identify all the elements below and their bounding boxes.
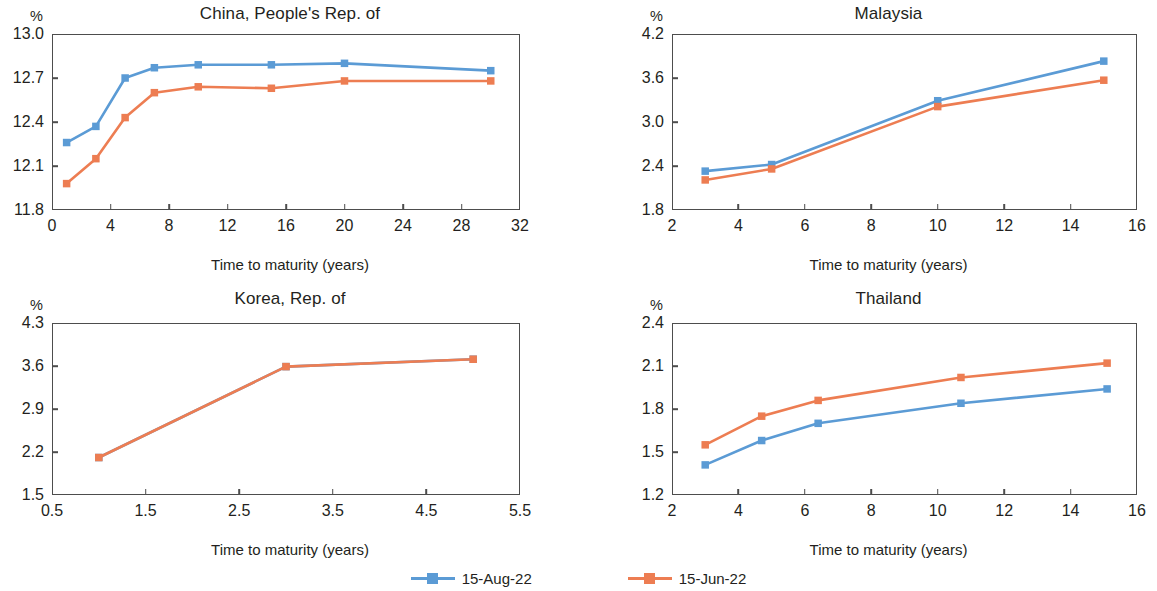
- data-point-marker: [282, 363, 290, 371]
- data-point-marker: [92, 155, 100, 163]
- series-jun: [701, 359, 1110, 448]
- series-layer: [0, 0, 580, 268]
- data-point-marker: [151, 89, 159, 97]
- data-point-marker: [151, 64, 159, 71]
- series-layer: [620, 0, 1157, 268]
- data-point-marker: [341, 60, 349, 68]
- series-aug: [95, 355, 477, 461]
- series-line: [67, 63, 491, 142]
- legend-label: 15-Aug-22: [462, 570, 532, 587]
- data-point-marker: [1103, 359, 1111, 367]
- data-point-marker: [701, 441, 709, 449]
- legend-label: 15-Jun-22: [679, 570, 747, 587]
- data-point-marker: [1103, 385, 1111, 393]
- legend-entry-jun[interactable]: 15-Jun-22: [628, 570, 747, 587]
- data-point-marker: [268, 85, 276, 93]
- series-layer: [620, 285, 1157, 553]
- data-point-marker: [268, 61, 276, 69]
- data-point-marker: [758, 412, 766, 420]
- data-point-marker: [121, 114, 129, 122]
- data-point-marker: [63, 180, 71, 188]
- chart-panel-thailand: Thailand % Time to maturity (years) 1.21…: [620, 285, 1157, 553]
- data-point-marker: [814, 420, 822, 428]
- data-point-marker: [701, 176, 709, 184]
- data-point-marker: [63, 139, 71, 147]
- data-point-marker: [1100, 57, 1108, 65]
- data-point-marker: [1100, 76, 1108, 84]
- data-point-marker: [814, 397, 822, 405]
- series-line: [705, 389, 1107, 465]
- data-point-marker: [487, 67, 495, 75]
- data-point-marker: [121, 74, 129, 82]
- series-jun: [63, 77, 495, 187]
- series-jun: [701, 76, 1107, 183]
- series-line: [705, 363, 1107, 445]
- series-line: [99, 359, 473, 457]
- data-point-marker: [487, 77, 495, 85]
- legend: 15-Aug-22 15-Jun-22: [0, 570, 1157, 587]
- data-point-marker: [469, 355, 477, 363]
- data-point-marker: [701, 167, 709, 175]
- data-point-marker: [341, 77, 349, 85]
- series-line: [67, 81, 491, 184]
- series-line: [99, 359, 473, 457]
- data-point-marker: [701, 461, 709, 469]
- data-point-marker: [758, 437, 766, 445]
- data-point-marker: [957, 400, 965, 408]
- data-point-marker: [768, 165, 776, 173]
- legend-swatch-icon: [411, 573, 455, 585]
- chart-panel-china: China, People's Rep. of % Time to maturi…: [0, 0, 580, 268]
- series-aug: [63, 60, 495, 147]
- legend-entry-aug[interactable]: 15-Aug-22: [411, 570, 532, 587]
- chart-panel-korea: Korea, Rep. of % Time to maturity (years…: [0, 285, 580, 553]
- series-line: [705, 61, 1104, 171]
- data-point-marker: [195, 83, 203, 91]
- data-point-marker: [957, 374, 965, 382]
- series-aug: [701, 57, 1107, 175]
- data-point-marker: [95, 454, 103, 462]
- series-aug: [701, 385, 1110, 468]
- data-point-marker: [934, 103, 942, 111]
- legend-swatch-icon: [628, 573, 672, 585]
- yield-curve-figure: China, People's Rep. of % Time to maturi…: [0, 0, 1157, 591]
- chart-panel-malaysia: Malaysia % Time to maturity (years) 1.82…: [620, 0, 1157, 268]
- data-point-marker: [195, 61, 203, 69]
- series-layer: [0, 285, 580, 553]
- series-jun: [95, 355, 477, 461]
- data-point-marker: [92, 123, 100, 130]
